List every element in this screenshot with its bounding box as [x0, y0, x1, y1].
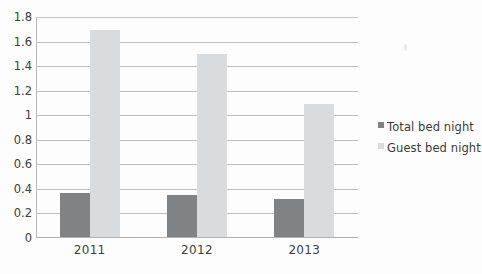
y-axis-tick-label: 1.2 [0, 84, 32, 98]
chart-legend: Total bed nightGuest bed night [378, 120, 482, 162]
legend-item[interactable]: Total bed night [378, 120, 482, 134]
scan-speck [404, 44, 407, 51]
legend-swatch-icon [378, 143, 384, 149]
y-axis-tick-labels: 1.81.61.41.210.80.60.40.20 [0, 0, 32, 274]
x-axis-tick-label: 2012 [143, 243, 250, 257]
y-axis-tick-label: 1.4 [0, 59, 32, 73]
y-axis-tick-label: 1 [0, 108, 32, 122]
y-axis-tick-label: 0.4 [0, 182, 32, 196]
y-axis-tick-label: 0.8 [0, 133, 32, 147]
y-axis-tick-label: 0.2 [0, 206, 32, 220]
y-axis-tick-label: 0.6 [0, 157, 32, 171]
bar-2012-guest-bed-night [197, 54, 227, 237]
x-axis-tick-label: 2013 [251, 243, 358, 257]
bar-2011-guest-bed-night [90, 30, 120, 237]
bar-2013-total-bed-night [274, 199, 304, 237]
gridline [36, 17, 358, 18]
legend-label: Total bed night [387, 120, 474, 134]
y-axis-tick-label: 0 [0, 231, 32, 245]
legend-swatch-icon [378, 122, 384, 128]
gridline [36, 42, 358, 43]
y-axis-line [36, 17, 37, 238]
x-axis-tick-label: 2011 [36, 243, 143, 257]
legend-label: Guest bed night [387, 141, 481, 155]
plot-area [36, 17, 358, 238]
legend-item[interactable]: Guest bed night [378, 141, 482, 155]
bar-2012-total-bed-night [167, 195, 197, 237]
bar-2011-total-bed-night [60, 193, 90, 237]
x-axis-line [36, 237, 358, 238]
y-axis-tick-label: 1.6 [0, 35, 32, 49]
chart-screenshot: 1.81.61.41.210.80.60.40.20 201120122013 … [0, 0, 482, 274]
bar-2013-guest-bed-night [304, 104, 334, 237]
y-axis-tick-label: 1.8 [0, 10, 32, 24]
